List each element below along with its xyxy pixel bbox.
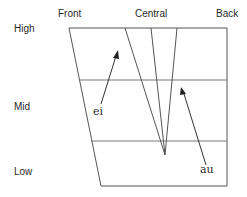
row-label-low: Low [14,166,33,177]
arrowhead-icon [113,50,119,59]
au-arrow-shaft [184,94,206,165]
diphthong-label-au: au [200,163,214,176]
row-label-mid: Mid [14,101,30,112]
vowel-quadrilateral-diagram: Front Central Back High Mid Low ei au [0,0,247,197]
diphthong-au-arrow [180,87,206,165]
column-label-back: Back [216,8,239,19]
central-converging-lines [125,28,177,155]
diphthong-ei-arrow [101,50,119,104]
row-label-high: High [14,23,35,34]
central-line-left [125,28,165,155]
central-line-middle [151,28,165,155]
column-label-front: Front [58,8,82,19]
diphthong-label-ei: ei [93,105,104,118]
arrowhead-icon [180,87,186,95]
central-line-right [165,28,177,155]
column-label-central: Central [135,8,167,19]
